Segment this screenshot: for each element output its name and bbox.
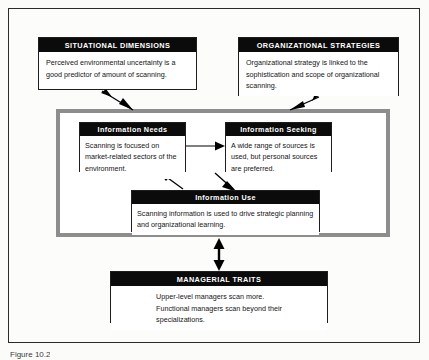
node-information-use-body: Scanning information is used to drive st… <box>132 204 319 235</box>
node-information-seeking[interactable]: Information Seeking A wide range of sour… <box>225 122 332 172</box>
figure-outer-frame: SITUATIONAL DIMENSIONS Perceived environ… <box>8 8 420 343</box>
node-organizational-strategies-title: ORGANIZATIONAL STRATEGIES <box>239 38 398 52</box>
node-information-needs[interactable]: Information Needs Scanning is focused on… <box>79 122 186 172</box>
node-managerial-traits-title: MANAGERIAL TRAITS <box>111 272 327 286</box>
node-managerial-traits-body: Upper-level managers scan more. Function… <box>111 286 327 329</box>
node-organizational-strategies[interactable]: ORGANIZATIONAL STRATEGIES Organizational… <box>238 37 399 96</box>
node-information-seeking-body: A wide range of sources is used, but per… <box>226 136 331 179</box>
node-situational-dimensions[interactable]: SITUATIONAL DIMENSIONS Perceived environ… <box>38 37 197 90</box>
node-information-use-title: Information Use <box>132 191 319 204</box>
node-situational-dimensions-title: SITUATIONAL DIMENSIONS <box>39 38 196 52</box>
arrow-situational-to-scanning <box>101 89 133 110</box>
node-managerial-traits-body-line-2: Functional managers scan beyond their <box>156 304 282 313</box>
scanned-page-background: SITUATIONAL DIMENSIONS Perceived environ… <box>0 0 429 360</box>
node-managerial-traits-body-line-3: specializations. <box>156 315 205 324</box>
node-organizational-strategies-body: Organizational strategy is linked to the… <box>239 52 398 95</box>
node-situational-dimensions-body: Perceived environmental uncertainty is a… <box>39 52 196 84</box>
node-managerial-traits[interactable]: MANAGERIAL TRAITS Upper-level managers s… <box>110 271 328 323</box>
node-information-needs-title: Information Needs <box>80 123 185 136</box>
arrow-traits-to-scanning <box>214 238 225 271</box>
node-information-needs-body: Scanning is focused on market-related se… <box>80 136 185 179</box>
node-information-seeking-title: Information Seeking <box>226 123 331 136</box>
node-information-use[interactable]: Information Use Scanning information is … <box>131 190 320 232</box>
node-managerial-traits-body-line-1: Upper-level managers scan more. <box>156 292 264 301</box>
figure-caption: Figure 10.2 <box>10 350 50 360</box>
